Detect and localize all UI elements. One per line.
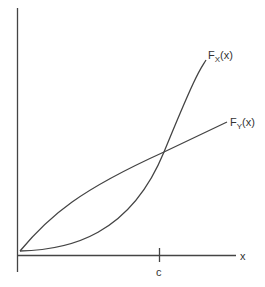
curve-fy: [20, 122, 227, 251]
tick-label-c: c: [156, 267, 162, 278]
fy-label: FY(x): [230, 117, 255, 128]
fx-label: FX(x): [208, 50, 233, 61]
x-axis-label: x: [240, 251, 246, 262]
diagram-canvas: [0, 0, 265, 287]
